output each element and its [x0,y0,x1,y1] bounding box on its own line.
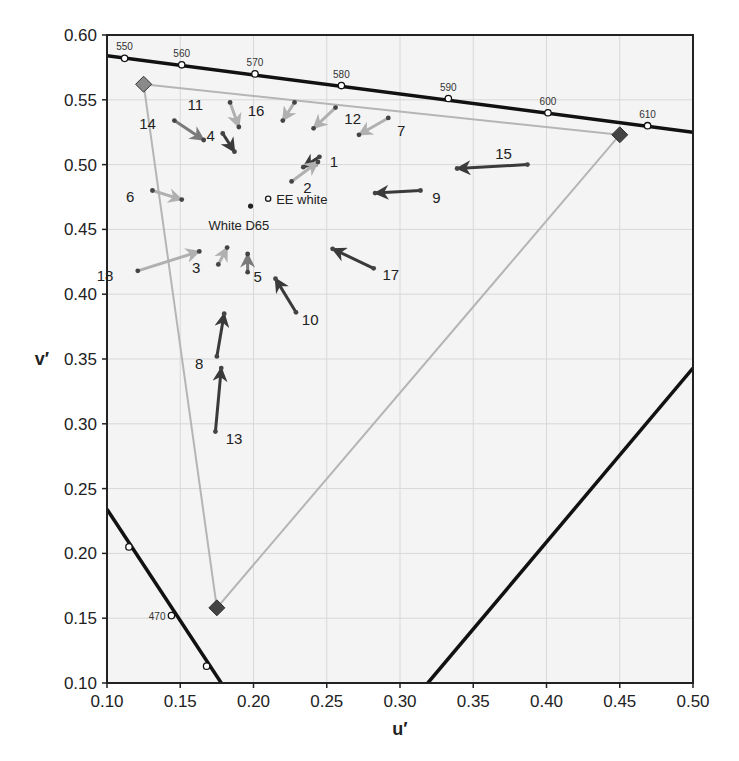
arrow-start-dot [386,116,391,121]
x-tick-label: 0.10 [90,692,123,711]
arrow-end-dot [373,191,378,196]
y-tick-label: 0.55 [64,91,97,110]
wavelength-marker [126,544,132,550]
arrow-start-dot [333,105,338,110]
arrow-label-10: 10 [302,311,319,328]
wavelength-marker [252,71,258,77]
wavelength-label: 600 [540,96,557,107]
wavelength-label: 560 [173,48,190,59]
arrow-start-dot [172,118,177,123]
arrow-start-dot [150,188,155,193]
x-tick-label: 0.30 [383,692,416,711]
arrow-end-dot [245,252,250,257]
y-tick-label: 0.30 [64,415,97,434]
x-axis-title: u′ [392,719,407,739]
arrow-end-dot [330,246,335,251]
wavelength-label: 470 [149,611,166,622]
arrow-start-dot [214,354,219,359]
arrow-start-dot [216,262,221,267]
arrow-start-dot [245,270,250,275]
arrow-label-8: 8 [195,355,203,372]
arrow-label-3: 3 [192,259,200,276]
d65-white-label: White D65 [209,218,270,233]
arrow-end-dot [311,126,316,131]
wavelength-label: 580 [333,69,350,80]
wavelength-marker [203,663,209,669]
y-axis-title: v′ [35,349,49,369]
arrow-end-dot [455,166,460,171]
ee-white-label: EE white [276,192,327,207]
arrow-label-1: 1 [330,153,338,170]
wavelength-label: 550 [116,41,133,52]
arrow-end-dot [280,118,285,123]
arrow-start-dot [317,154,322,159]
arrow-label-16: 16 [248,102,265,119]
wavelength-label: 570 [247,57,264,68]
arrow-start-dot [292,100,297,105]
wavelength-marker [121,55,127,61]
arrow-end-dot [236,125,241,130]
arrow-start-dot [213,429,218,434]
arrow-start-dot [289,179,294,184]
arrow-end-dot [301,165,306,170]
arrow-end-dot [273,276,278,281]
arrow-end-dot [179,197,184,202]
arrow-end-dot [222,311,227,316]
y-tick-label: 0.15 [64,609,97,628]
wavelength-marker [168,612,174,618]
arrow-start-dot [418,188,423,193]
arrow-end-dot [219,366,224,371]
y-tick-label: 0.40 [64,285,97,304]
y-tick-label: 0.35 [64,350,97,369]
x-tick-label: 0.20 [237,692,270,711]
cie-uv-chromaticity-chart: 0.100.150.200.250.300.350.400.450.500.10… [0,0,739,761]
arrow-end-dot [225,245,230,250]
arrow-end-dot [357,132,362,137]
arrow-start-dot [371,266,376,271]
wavelength-marker [545,110,551,116]
arrow-label-5: 5 [254,268,262,285]
arrow-end-dot [232,149,237,154]
arrow-end-dot [201,138,206,143]
arrow-label-12: 12 [344,110,361,127]
d65-white-marker [248,203,253,208]
wavelength-marker [644,123,650,129]
arrow-label-4: 4 [207,127,215,144]
wavelength-marker [445,95,451,101]
arrow-label-18: 18 [97,267,114,284]
wavelength-label: 610 [639,109,656,120]
arrow-end-dot [197,249,202,254]
x-tick-label: 0.15 [164,692,197,711]
arrow-label-15: 15 [495,145,512,162]
arrow-label-7: 7 [397,122,405,139]
wavelength-label: 590 [440,82,457,93]
arrow-start-dot [220,131,225,136]
y-tick-label: 0.10 [64,674,97,693]
arrow-end-dot [316,160,321,165]
y-tick-label: 0.50 [64,156,97,175]
arrow-label-17: 17 [382,266,399,283]
arrow-start-dot [135,268,140,273]
arrow-start-dot [228,100,233,105]
arrow-label-14: 14 [139,115,156,132]
y-tick-label: 0.60 [64,26,97,45]
y-tick-label: 0.20 [64,544,97,563]
x-tick-label: 0.35 [457,692,490,711]
ee-white-marker [266,196,271,201]
y-tick-label: 0.45 [64,220,97,239]
wavelength-marker [338,82,344,88]
arrow-start-dot [294,310,299,315]
x-tick-label: 0.40 [530,692,563,711]
arrow-label-9: 9 [432,189,440,206]
y-tick-label: 0.25 [64,480,97,499]
x-tick-label: 0.25 [310,692,343,711]
x-tick-label: 0.45 [603,692,636,711]
arrow-start-dot [525,162,530,167]
x-tick-label: 0.50 [676,692,709,711]
arrow-label-11: 11 [188,96,204,113]
wavelength-marker [179,62,185,68]
arrow-label-2: 2 [303,179,311,196]
arrow-label-13: 13 [226,430,243,447]
arrow-label-6: 6 [126,188,134,205]
